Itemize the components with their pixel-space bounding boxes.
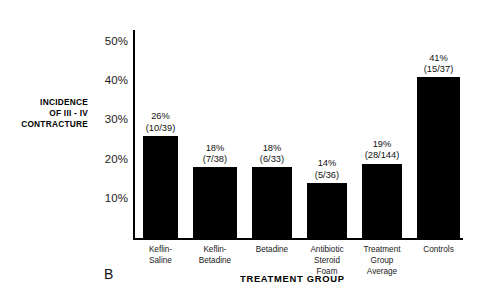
- bar-percent-label: 18%: [238, 143, 306, 154]
- y-axis-tick-label: 20%: [105, 153, 128, 165]
- bar-fraction-label: (5/36): [293, 170, 361, 181]
- bar-value-label: 19%(28/144): [348, 139, 416, 162]
- bar-value-label: 26%(10/39): [129, 111, 192, 134]
- chart-figure: INCIDENCE OF III - IV CONTRACTURE 10%20%…: [0, 0, 479, 293]
- bar-group: 18%(7/38): [193, 167, 237, 238]
- bar-fraction-label: (28/144): [348, 150, 416, 161]
- y-axis-tick-label: 30%: [105, 113, 128, 125]
- bar[interactable]: [417, 77, 460, 238]
- bar-group: 14%(5/36): [307, 183, 347, 238]
- bar-group: 41%(15/37): [417, 77, 460, 238]
- plot-area: 26%(10/39)18%(7/38)18%(6/33)14%(5/36)19%…: [133, 20, 479, 240]
- y-axis-tick-label: 50%: [105, 35, 128, 47]
- y-axis-title-line-3: CONTRACTURE: [8, 119, 88, 130]
- bar-group: 26%(10/39): [143, 136, 178, 238]
- bar[interactable]: [143, 136, 178, 238]
- x-axis-category-label: Controls: [403, 245, 474, 256]
- y-axis-title-line-2: OF III - IV: [8, 108, 88, 119]
- x-axis-category-line: Group: [348, 256, 416, 267]
- panel-letter: B: [104, 266, 113, 282]
- bar-fraction-label: (10/39): [129, 123, 192, 134]
- x-axis-category-line: Average: [348, 267, 416, 278]
- bar-fraction-label: (15/37): [403, 64, 474, 75]
- bar-group: 19%(28/144): [362, 164, 402, 238]
- y-axis-title-line-1: INCIDENCE: [8, 97, 88, 108]
- bar-group: 18%(6/33): [252, 167, 292, 238]
- bar[interactable]: [362, 164, 402, 238]
- x-axis-category-line: Controls: [403, 245, 474, 256]
- bar[interactable]: [252, 167, 292, 238]
- bar-percent-label: 19%: [348, 139, 416, 150]
- y-axis-tick-label: 40%: [105, 74, 128, 86]
- bar[interactable]: [307, 183, 347, 238]
- y-axis-title: INCIDENCE OF III - IV CONTRACTURE: [8, 97, 88, 130]
- y-axis-tick-label: 10%: [105, 192, 128, 204]
- bar-value-label: 41%(15/37): [403, 53, 474, 76]
- bar-percent-label: 26%: [129, 111, 192, 122]
- bar-value-label: 14%(5/36): [293, 158, 361, 181]
- y-axis-tick-labels: 10%20%30%40%50%: [90, 0, 128, 293]
- bar-percent-label: 41%: [403, 53, 474, 64]
- x-axis-category-line: Betadine: [179, 256, 251, 267]
- bar[interactable]: [193, 167, 237, 238]
